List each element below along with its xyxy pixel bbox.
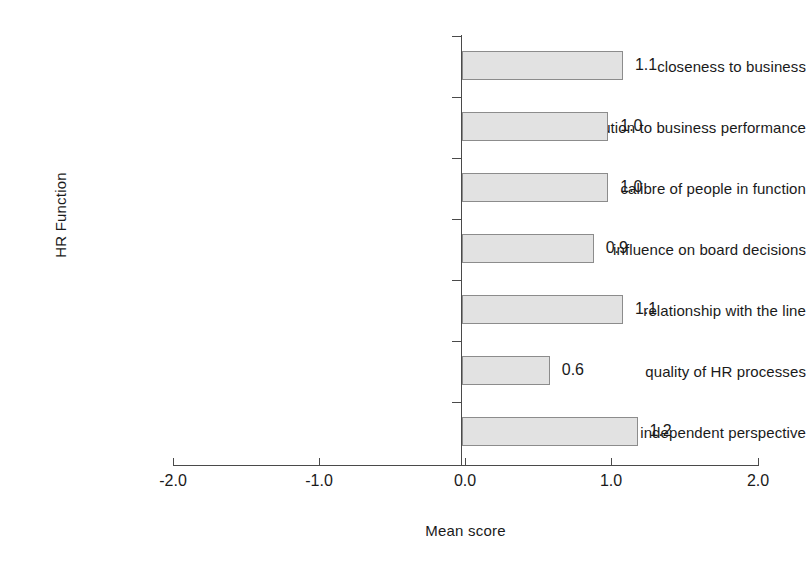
x-axis-tick-label: 1.0 (571, 472, 651, 490)
x-axis-tick (465, 458, 466, 466)
bar-value-label: 1.1 (635, 300, 657, 318)
bar-value-label: 1.1 (635, 56, 657, 74)
y-axis-tick (452, 158, 461, 159)
x-axis-tick (758, 458, 759, 466)
x-axis-tick-label: 0.0 (425, 472, 505, 490)
bar[interactable] (462, 295, 623, 324)
bar-value-label: 1.2 (650, 422, 672, 440)
value-axis-line (173, 465, 759, 466)
x-axis-tick-label: 2.0 (718, 472, 798, 490)
bar-value-label: 0.6 (562, 361, 584, 379)
y-axis-tick (452, 219, 461, 220)
x-axis-tick (173, 458, 174, 466)
bar[interactable] (462, 173, 608, 202)
y-axis-tick (452, 36, 461, 37)
category-label: quality of HR processes (366, 363, 806, 380)
bar[interactable] (462, 112, 608, 141)
y-axis-tick (452, 341, 461, 342)
bar[interactable] (462, 417, 638, 446)
bar[interactable] (462, 356, 550, 385)
bar-value-label: 0.9 (606, 239, 628, 257)
x-axis-tick-label: -2.0 (133, 472, 213, 490)
bar[interactable] (462, 234, 594, 263)
plot-area: -2.0 -1.0 0.0 1.0 2.0 closeness to busin… (0, 0, 806, 565)
bar-value-label: 1.0 (620, 117, 642, 135)
x-axis-tick (319, 458, 320, 466)
y-axis-tick (452, 280, 461, 281)
bar[interactable] (462, 51, 623, 80)
x-axis-tick-label: -1.0 (279, 472, 359, 490)
x-axis-title: Mean score (173, 522, 758, 539)
bar-chart: HR Function -2.0 -1.0 0.0 1.0 2.0 closen… (0, 0, 806, 565)
bar-value-label: 1.0 (620, 178, 642, 196)
y-axis-tick (452, 97, 461, 98)
y-axis-tick (452, 402, 461, 403)
x-axis-tick (611, 458, 612, 466)
